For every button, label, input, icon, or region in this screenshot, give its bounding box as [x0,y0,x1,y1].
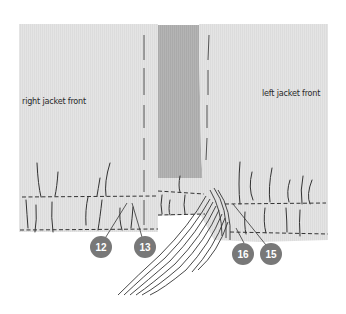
illustration-canvas [0,0,346,314]
callout-16: 16 [232,243,254,265]
left-jacket-front-label: left jacket front [262,88,320,98]
right-jacket-front-panel [19,24,158,232]
sewing-illustration: right jacket front left jacket front 12 … [0,0,346,314]
callout-15: 15 [260,243,282,265]
callout-13: 13 [134,236,156,258]
right-jacket-front-label: right jacket front [22,96,86,106]
callout-12: 12 [90,236,112,258]
